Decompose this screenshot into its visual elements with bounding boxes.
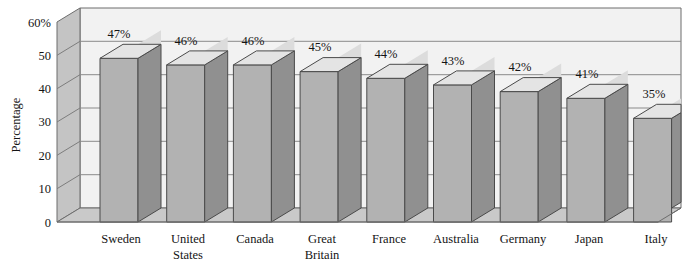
x-tick-label-italy: Italy bbox=[645, 232, 669, 246]
bar-front-face bbox=[567, 98, 605, 222]
bar-data-label: 35% bbox=[643, 87, 666, 101]
x-tick-label-canada: Canada bbox=[236, 232, 274, 246]
bar-side-face bbox=[672, 113, 681, 208]
x-tick-label-great-britain-line1: Great bbox=[308, 232, 336, 246]
y-tick-label: 30 bbox=[39, 115, 52, 129]
bar-canada[interactable]: 46% bbox=[233, 34, 294, 222]
bar-side-face bbox=[472, 71, 495, 222]
bar-side-face bbox=[538, 78, 561, 222]
x-tick-label-great-britain-line2: Britain bbox=[305, 248, 340, 262]
y-axis-title: Percentage bbox=[9, 97, 23, 152]
bar-side-face bbox=[271, 51, 294, 222]
bar-front-face bbox=[367, 78, 405, 222]
bar-data-label: 44% bbox=[375, 47, 398, 61]
bar-front-face bbox=[233, 65, 271, 222]
bar-chart-figure: 60% 50 40 30 20 10 0 Percentage bbox=[0, 0, 693, 270]
bar-data-label: 45% bbox=[309, 40, 332, 54]
x-tick-label-united-states-line1: United bbox=[171, 232, 206, 246]
y-tick-label: 50 bbox=[39, 49, 52, 63]
x-tick-label-sweden: Sweden bbox=[101, 232, 141, 246]
bar-australia[interactable]: 43% bbox=[434, 54, 495, 222]
chart-canvas: 60% 50 40 30 20 10 0 Percentage bbox=[0, 0, 693, 270]
bar-france[interactable]: 44% bbox=[367, 47, 428, 222]
bar-front-face bbox=[100, 58, 138, 222]
bar-data-label: 43% bbox=[442, 54, 465, 68]
y-tick-label: 60% bbox=[28, 16, 51, 30]
bar-united-states[interactable]: 46% bbox=[167, 34, 228, 222]
bar-front-face bbox=[167, 65, 205, 222]
bar-side-face bbox=[138, 44, 161, 222]
bar-data-label: 46% bbox=[175, 34, 198, 48]
x-axis-labels: Sweden United States Canada Great Britai… bbox=[101, 232, 668, 262]
x-tick-label-france: France bbox=[372, 232, 406, 246]
bar-side-face bbox=[605, 84, 628, 222]
bar-data-label: 42% bbox=[509, 60, 532, 74]
x-tick-label-germany: Germany bbox=[500, 232, 547, 246]
bar-great-britain[interactable]: 45% bbox=[300, 40, 361, 222]
y-axis: 60% 50 40 30 20 10 0 Percentage bbox=[9, 16, 51, 230]
bar-sweden[interactable]: 47% bbox=[100, 27, 161, 222]
y-tick-label: 10 bbox=[39, 182, 52, 196]
x-tick-label-japan: Japan bbox=[575, 232, 604, 246]
bar-data-label: 47% bbox=[108, 27, 131, 41]
y-tick-label: 40 bbox=[39, 82, 52, 96]
bar-front-face bbox=[500, 92, 538, 222]
bar-data-label: 41% bbox=[576, 67, 599, 81]
x-tick-label-australia: Australia bbox=[433, 232, 479, 246]
bar-front-face bbox=[300, 72, 338, 222]
bar-front-face bbox=[634, 118, 672, 222]
bar-side-face bbox=[338, 58, 361, 222]
bar-side-face bbox=[205, 51, 228, 222]
y-tick-label: 20 bbox=[39, 149, 52, 163]
bar-side-face bbox=[405, 64, 428, 222]
bar-data-label: 46% bbox=[242, 34, 265, 48]
bar-front-face bbox=[434, 85, 472, 222]
y-tick-label: 0 bbox=[45, 216, 51, 230]
x-tick-label-united-states-line2: States bbox=[173, 248, 203, 262]
